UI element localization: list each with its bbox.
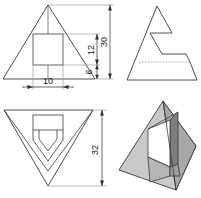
dimension-slot-height: 12 <box>86 34 99 65</box>
front-view <box>3 5 95 79</box>
top-view-edge-right <box>48 110 93 171</box>
dimension-30-label: 30 <box>99 37 109 47</box>
top-view-channel-inner <box>39 130 57 151</box>
top-view-rectangle <box>33 115 63 130</box>
top-view-triangle <box>4 110 93 186</box>
side-view <box>127 6 197 80</box>
side-view-profile <box>127 6 197 80</box>
dimension-10-label: 10 <box>43 76 53 86</box>
dimension-12-label: 12 <box>86 45 96 55</box>
dimension-slot-width: 10 <box>22 76 74 89</box>
pictorial-view <box>119 101 196 190</box>
front-view-slot <box>33 34 63 65</box>
dimension-32-label: 32 <box>90 145 100 155</box>
dimension-top-depth: 32 <box>90 110 104 186</box>
dimension-overall-height: 30 <box>99 5 112 79</box>
dimension-6-label: 6 <box>84 69 94 74</box>
front-view-triangle <box>3 5 95 79</box>
top-view <box>4 110 93 186</box>
top-view-edge-left <box>4 110 48 171</box>
dimension-lower-height: 6 <box>84 65 99 79</box>
drawing-sheet: 30 12 6 10 <box>0 0 201 198</box>
